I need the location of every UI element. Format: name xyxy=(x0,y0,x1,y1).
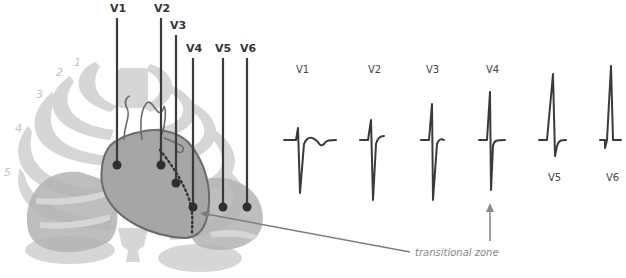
ecg-label-v1: V1 xyxy=(296,64,309,75)
rib-number-3: 3 xyxy=(36,88,43,101)
rib-number-2: 2 xyxy=(56,66,63,79)
lead-label-v5: V5 xyxy=(215,42,231,55)
rib-number-4: 4 xyxy=(15,122,22,135)
rib-number-1: 1 xyxy=(74,56,81,69)
ecg-labels: V1 V2 V3 V4 V5 V6 xyxy=(296,64,619,183)
ecg-trace-v4 xyxy=(479,92,505,190)
ecg-label-v3: V3 xyxy=(426,64,439,75)
precordial-leads-diagram: 1 2 3 4 5 xyxy=(0,0,626,278)
arrow-up-icon xyxy=(486,203,494,212)
ecg-complexes xyxy=(284,66,621,200)
lead-label-v4: V4 xyxy=(186,42,203,55)
ecg-trace-v3 xyxy=(421,104,444,200)
ecg-label-v6: V6 xyxy=(606,172,619,183)
electrode-v5[interactable] xyxy=(219,203,228,212)
electrode-v1[interactable] xyxy=(113,161,122,170)
manubrium xyxy=(118,68,148,108)
ecg-trace-v5 xyxy=(539,74,566,156)
rib-1-left xyxy=(79,62,118,112)
ecg-label-v4: V4 xyxy=(486,64,499,75)
ecg-label-v5: V5 xyxy=(548,172,561,183)
electrode-v2[interactable] xyxy=(157,161,166,170)
lead-label-v2: V2 xyxy=(154,2,170,15)
ecg-trace-v6 xyxy=(600,66,621,148)
lead-labels: V1 V2 V3 V4 V5 V6 xyxy=(110,2,257,55)
ecg-trace-v1 xyxy=(284,128,336,193)
electrode-v6[interactable] xyxy=(243,203,252,212)
lead-label-v3: V3 xyxy=(170,19,186,32)
ecg-label-v2: V2 xyxy=(368,64,381,75)
lead-label-v6: V6 xyxy=(240,42,257,55)
electrode-v4[interactable] xyxy=(189,203,198,212)
ecg-trace-v2 xyxy=(360,120,384,200)
electrode-v3[interactable] xyxy=(172,179,181,188)
rib-number-5: 5 xyxy=(4,166,11,179)
xiphoid xyxy=(118,228,148,262)
lead-label-v1: V1 xyxy=(110,2,126,15)
transitional-zone-label: transitional zone xyxy=(415,247,499,258)
